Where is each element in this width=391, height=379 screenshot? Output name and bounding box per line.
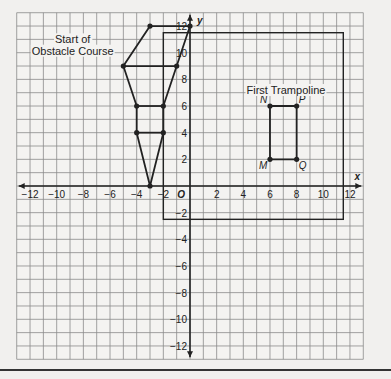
x-tick-label: 6 [267,189,273,200]
x-tick-label: −10 [48,189,65,200]
y-tick-label: 2 [181,154,187,165]
y-tick-label: −4 [176,234,188,245]
x-axis-label: x [354,171,361,182]
x-tick-label: −8 [78,189,90,200]
obstacle-course-vertex [134,130,139,135]
trampoline-vertex-n [267,103,272,108]
obstacle-course-title-line1: Start of [55,33,91,45]
first-trampoline-title: First Trampoline [247,84,326,96]
x-tick-label: −12 [22,189,39,200]
x-tick-label: −4 [131,189,143,200]
obstacle-course-vertex [187,23,192,28]
y-tick-label: −8 [176,288,188,299]
y-axis-label: y [196,15,203,26]
vertex-label-q: Q [299,160,307,171]
y-tick-label: −10 [170,314,187,325]
obstacle-course-vertex [121,63,126,68]
obstacle-course-vertex [161,130,166,135]
origin-label: O [177,189,185,200]
x-tick-label: 12 [344,189,356,200]
x-tick-label: 2 [214,189,220,200]
x-tick-label: 10 [318,189,330,200]
trampoline-vertex-m [267,157,272,162]
obstacle-course-vertex [134,103,139,108]
vertex-label-m: M [259,160,268,171]
y-tick-label: 4 [181,128,187,139]
obstacle-course-vertex [147,183,152,188]
y-tick-label: −2 [176,208,188,219]
y-tick-label: 6 [181,101,187,112]
obstacle-course-title-line2: Obstacle Course [32,45,114,57]
y-tick-label: −6 [176,261,188,272]
y-tick-label: 8 [181,74,187,85]
x-tick-label: 8 [294,189,300,200]
y-tick-label: −12 [170,341,187,352]
x-tick-label: 4 [241,189,247,200]
coordinate-plane: −12−10−8−6−4−22468101212108642−2−4−6−8−1… [0,0,391,379]
obstacle-course-vertex [174,63,179,68]
obstacle-course-vertex [147,23,152,28]
x-tick-label: −6 [104,189,116,200]
obstacle-course-vertex [161,103,166,108]
